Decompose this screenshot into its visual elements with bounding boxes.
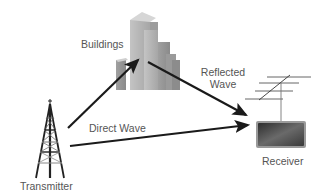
tv-antenna-icon — [245, 75, 311, 121]
receiver-box-icon — [256, 121, 306, 148]
transmitter-label: Transmitter — [20, 180, 73, 192]
receiver-label: Receiver — [262, 155, 303, 167]
radio-tower-icon — [36, 99, 64, 178]
direct-wave-label: Direct Wave — [89, 122, 146, 134]
buildings-icon — [116, 12, 180, 90]
reflected-wave-label-line2: Wave — [193, 78, 253, 90]
buildings-label: Buildings — [81, 38, 124, 50]
reflected-wave-label: Reflected Wave — [193, 66, 253, 90]
arrow-transmitter-to-buildings — [68, 60, 138, 128]
reflected-wave-label-line1: Reflected — [193, 66, 253, 78]
